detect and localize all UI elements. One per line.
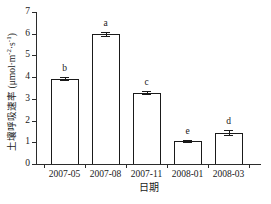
y-axis-tick-label: 7 [25,7,30,17]
y-axis-title: 土壤呼吸速率 (μmol·m-2·s-1) [4,12,20,172]
y-axis-tick-label: 3 [25,94,30,104]
y-axis-tick-mark [32,164,36,165]
significance-letter: c [144,78,148,88]
y-axis-tick-label: 4 [25,72,30,82]
x-axis-tick-mark [249,164,250,168]
plot-area: 01234567 2007-052007-082007-112008-01200… [36,12,261,164]
bar [92,34,120,164]
x-axis-tick-mark [167,164,168,168]
x-axis-tick-label: 2007-11 [131,170,162,180]
significance-letter: a [103,19,107,29]
significance-letter: b [62,64,67,74]
x-axis-line [36,164,261,165]
significance-letter: d [226,117,231,127]
significance-letter: e [185,127,189,137]
error-bar-cap-upper [142,91,151,92]
error-bar-cap-upper [60,77,69,78]
y-axis-units-suffix: ) [7,33,17,36]
y-axis-tick-mark [32,77,36,78]
bar [133,93,161,164]
bar [174,141,202,164]
error-bar-cap-upper [224,130,233,131]
y-axis-tick-label: 5 [25,51,30,61]
y-axis-tick-mark [32,55,36,56]
bar [215,133,243,164]
x-axis-tick-label: 2007-05 [49,170,81,180]
y-axis-tick-mark [32,142,36,143]
y-axis-title-text: 土壤呼吸速率 [7,91,17,151]
x-axis-tick-mark [85,164,86,168]
error-bar-cap-lower [142,94,151,95]
x-axis-title: 日期 [36,183,261,193]
bar [51,79,79,164]
y-axis-tick-mark [32,121,36,122]
y-axis-tick-label: 0 [25,159,30,169]
y-axis-line [36,12,37,164]
x-axis-tick-label: 2007-08 [90,170,122,180]
y-axis-tick-label: 1 [25,138,30,148]
y-axis-tick-mark [32,34,36,35]
y-axis-tick-mark [32,99,36,100]
y-axis-tick-mark [32,12,36,13]
y-axis-units-exponent-2: -1 [5,36,13,42]
x-axis-tick-label: 2008-03 [213,170,245,180]
y-axis-units-prefix: (μmol·m [7,55,17,91]
y-axis-units-mid: ·s [7,42,17,49]
x-axis-tick-mark [126,164,127,168]
error-bar-cap-upper [101,32,110,33]
error-bar-cap-lower [183,142,192,143]
x-axis-tick-mark [44,164,45,168]
soil-respiration-bar-chart: 土壤呼吸速率 (μmol·m-2·s-1) 01234567 2007-0520… [0,0,271,204]
error-bar-cap-lower [60,80,69,81]
y-axis-tick-label: 6 [25,29,30,39]
error-bar-cap-lower [101,36,110,37]
y-axis-units-exponent-1: -2 [5,49,13,55]
error-bar-cap-lower [224,135,233,136]
y-axis-tick-label: 2 [25,116,30,126]
x-axis-tick-mark [208,164,209,168]
x-axis-tick-label: 2008-01 [172,170,204,180]
